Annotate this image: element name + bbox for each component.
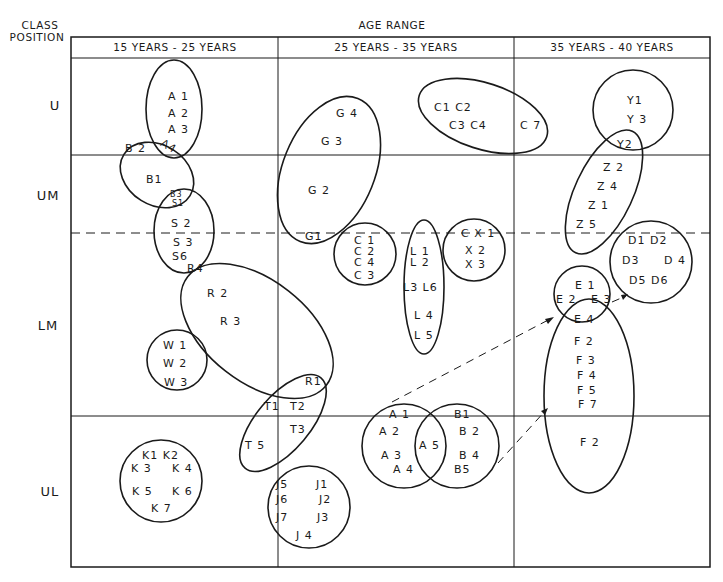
- member-label: B1: [146, 173, 163, 186]
- member-label: A 2: [168, 107, 189, 120]
- member-label: G 4: [336, 107, 358, 120]
- member-label: B 4: [459, 449, 480, 462]
- grid: [71, 37, 710, 567]
- class-age-diagram: CLASS POSITION AGE RANGE 15 YEARS - 25 Y…: [0, 0, 723, 582]
- member-label: R 3: [220, 315, 241, 328]
- row-label-lm: LM: [38, 318, 58, 333]
- member-label: L3 L6: [403, 281, 438, 294]
- member-label: Z 5: [576, 218, 597, 231]
- member-label: E 3: [591, 293, 611, 306]
- member-label: X 3: [465, 258, 486, 271]
- member-label: J5: [275, 478, 288, 491]
- member-label: F 7: [578, 398, 598, 411]
- member-label: S6: [172, 250, 188, 263]
- member-label: Z 1: [588, 199, 609, 212]
- member-label: E 2: [556, 293, 576, 306]
- member-label: B1: [454, 408, 471, 421]
- member-label: A 3: [381, 449, 402, 462]
- column-header-15-25: 15 YEARS - 25 YEARS: [113, 41, 237, 53]
- member-label: D3: [622, 254, 639, 267]
- member-label: T 5: [244, 439, 265, 452]
- member-label: K 3: [131, 462, 152, 475]
- member-label: Y1: [626, 94, 643, 107]
- member-label: S 2: [171, 217, 191, 230]
- member-label: A 1: [389, 408, 410, 421]
- column-header-35-40: 35 YEARS - 40 YEARS: [550, 41, 674, 53]
- member-label: C 7: [520, 119, 541, 132]
- member-label: R 2: [207, 287, 228, 300]
- member-label: B3: [170, 190, 183, 199]
- member-label: D 4: [664, 254, 686, 267]
- member-label: R4: [187, 262, 204, 275]
- member-label: G1: [305, 230, 323, 243]
- column-header-25-35: 25 YEARS - 35 YEARS: [334, 41, 458, 53]
- member-label: K 5: [132, 485, 153, 498]
- arrowhead-icon: [545, 317, 554, 324]
- member-label: L 5: [414, 329, 434, 342]
- member-label: C1 C2: [434, 101, 472, 114]
- member-label: Z 4: [597, 180, 618, 193]
- row-label-um: UM: [37, 188, 60, 203]
- y-axis-title-line1: CLASS: [22, 19, 59, 31]
- group-outline-g: [258, 81, 401, 258]
- grid-frame: [71, 37, 710, 567]
- member-label: X 2: [465, 244, 486, 257]
- member-label: D1 D2: [628, 234, 667, 247]
- member-label: G 3: [321, 135, 343, 148]
- arrowhead-icon: [621, 294, 628, 300]
- member-label: W 3: [164, 376, 188, 389]
- member-label: K 6: [172, 485, 193, 498]
- member-label: W 1: [163, 339, 187, 352]
- member-label: T3: [289, 423, 306, 436]
- member-label: A 5: [419, 439, 440, 452]
- member-label: J3: [316, 511, 329, 524]
- arrow-b-to-f: [498, 410, 546, 463]
- y-axis-title-line2: POSITION: [10, 31, 65, 43]
- member-label: Y2: [616, 138, 633, 151]
- member-label: A 4: [393, 463, 414, 476]
- member-label: B5: [454, 463, 471, 476]
- group-outline-y: [593, 70, 673, 150]
- member-label: T1: [263, 400, 280, 413]
- member-label: D5 D6: [629, 274, 668, 287]
- member-label: G 2: [308, 184, 330, 197]
- member-label: C 3: [354, 269, 375, 282]
- member-label: B 2: [459, 425, 480, 438]
- member-label: L 4: [414, 309, 434, 322]
- member-label: J 4: [295, 529, 313, 542]
- member-label: C X 1: [461, 227, 495, 240]
- group-outline-t: [224, 360, 341, 485]
- member-label: J7: [275, 511, 288, 524]
- x-axis-title: AGE RANGE: [358, 19, 425, 31]
- member-label: K 4: [172, 462, 193, 475]
- member-label: J1: [315, 478, 328, 491]
- member-label: W 2: [163, 357, 187, 370]
- member-label: K1 K2: [142, 449, 179, 462]
- group-outline-c-top: [409, 64, 557, 168]
- member-label: F 3: [576, 354, 596, 367]
- member-label: T2: [289, 400, 306, 413]
- member-label: F 4: [577, 369, 597, 382]
- member-label: E 1: [575, 279, 595, 292]
- member-label: F 5: [577, 384, 597, 397]
- member-label: E 4: [574, 313, 594, 326]
- member-label: Y 3: [626, 113, 647, 126]
- member-label: C 4: [354, 256, 375, 269]
- member-label: C3 C4: [449, 119, 487, 132]
- member-label: A 3: [168, 123, 189, 136]
- member-label: L 2: [410, 256, 430, 269]
- member-label: R1: [305, 375, 322, 388]
- member-label: S1: [172, 199, 184, 208]
- member-label: A 1: [168, 90, 189, 103]
- member-label: K 7: [151, 502, 172, 515]
- member-label: F 2: [580, 436, 600, 449]
- member-label: J2: [318, 493, 331, 506]
- member-label: A 2: [379, 425, 400, 438]
- member-label: Z 2: [603, 161, 624, 174]
- member-label: S 3: [173, 236, 193, 249]
- member-label: F 2: [574, 335, 594, 348]
- member-label: B 2: [125, 142, 146, 155]
- row-label-ul: UL: [41, 484, 60, 499]
- member-label: J6: [275, 493, 288, 506]
- row-label-u: U: [50, 98, 61, 113]
